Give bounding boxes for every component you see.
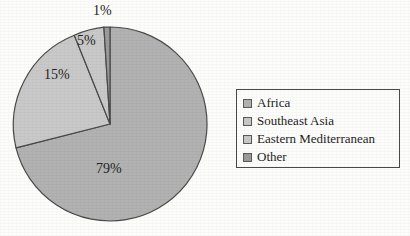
legend-item-africa: Africa (243, 94, 399, 112)
chart-legend: Africa Southeast Asia Eastern Mediterran… (236, 89, 400, 168)
legend-label-eastern-mediterranean: Eastern Mediterranean (257, 132, 375, 146)
legend-swatch-icon-eastern-mediterranean (243, 135, 252, 144)
pie-plot-area: 1% 5% 15% 79% (0, 0, 230, 236)
pie-svg (0, 0, 230, 236)
legend-swatch-icon-other (243, 153, 252, 162)
slice-label-southeast-asia: 15% (44, 67, 70, 82)
legend-label-southeast-asia: Southeast Asia (257, 114, 334, 128)
legend-swatch-icon-southeast-asia (243, 117, 252, 126)
slice-label-other: 1% (93, 3, 112, 18)
legend-item-eastern-mediterranean: Eastern Mediterranean (243, 130, 399, 148)
legend-item-southeast-asia: Southeast Asia (243, 112, 399, 130)
slice-label-africa: 79% (96, 161, 122, 176)
pie-chart-figure: 1% 5% 15% 79% Africa Southeast Asia East… (0, 0, 410, 236)
legend-swatch-icon-africa (243, 99, 252, 108)
legend-label-africa: Africa (257, 96, 290, 110)
legend-label-other: Other (257, 150, 287, 164)
legend-item-other: Other (243, 148, 399, 166)
slice-label-eastern-mediterranean: 5% (77, 33, 96, 48)
